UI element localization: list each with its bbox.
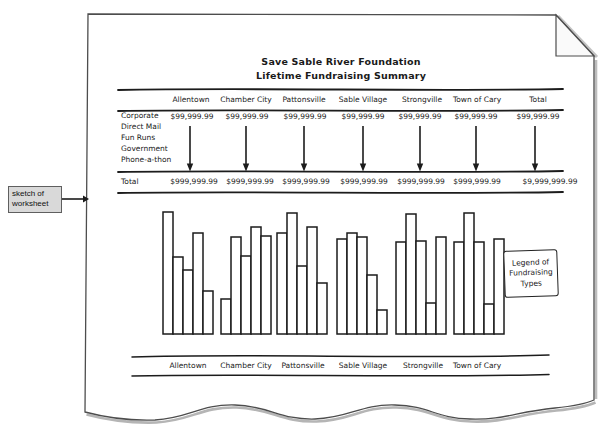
total-row-label: Total [121, 177, 139, 186]
chart-category-allentown: Allentown [169, 361, 206, 370]
bar-strongville-corporate [396, 242, 406, 334]
row-label-corporate: Corporate [121, 111, 159, 120]
chart-category-chamber-city: Chamber City [220, 361, 271, 370]
cell-total-value: $999,999.99 [282, 177, 330, 186]
legend-line: Types [521, 278, 542, 289]
row-label-fun-runs: Fun Runs [121, 133, 155, 142]
cell-detail-value: $99,999.99 [284, 112, 327, 121]
bar-chamber-city-phone-a-thon [261, 236, 271, 334]
bar-strongville-fun-runs [416, 241, 426, 334]
column-header-town-of-cary: Town of Cary [453, 95, 501, 104]
cell-total-value: $999,999.99 [397, 177, 445, 186]
table-rule-header [118, 110, 563, 111]
cell-total-value: $999,999.99 [453, 177, 501, 186]
cell-total-value: $9,999,999.99 [523, 177, 578, 186]
bar-pattonsville-direct-mail [287, 213, 297, 334]
callout-sketch-of-worksheet: sketch of worksheet [8, 186, 62, 213]
bar-town-of-cary-direct-mail [464, 213, 474, 334]
cell-detail-value: $99,999.99 [342, 112, 385, 121]
bar-sable-village-government [367, 275, 377, 334]
bar-allentown-fun-runs [183, 270, 193, 334]
bar-allentown-government [193, 233, 203, 334]
cell-detail-value: $99,999.99 [455, 112, 498, 121]
bar-allentown-phone-a-thon [203, 291, 213, 334]
cell-total-value: $999,999.99 [340, 177, 388, 186]
bar-town-of-cary-corporate [454, 242, 464, 334]
bar-chamber-city-corporate [221, 299, 231, 334]
bar-pattonsville-government [307, 227, 317, 334]
row-label-direct-mail: Direct Mail [121, 122, 161, 131]
dog-ear-fold-icon [556, 15, 594, 56]
bar-town-of-cary-government [484, 304, 494, 334]
bar-sable-village-corporate [337, 239, 347, 334]
bar-sable-village-fun-runs [357, 237, 367, 334]
chart-category-pattonsville: Pattonsville [281, 361, 324, 370]
legend-line: Fundraising [509, 267, 553, 279]
bar-chamber-city-fun-runs [241, 256, 251, 334]
chart-category-town-of-cary: Town of Cary [453, 361, 501, 370]
column-header-chamber-city: Chamber City [220, 95, 271, 104]
cell-detail-value: $99,999.99 [517, 112, 560, 121]
bar-chamber-city-government [251, 227, 261, 334]
cell-detail-value: $99,999.99 [226, 112, 269, 121]
column-header-allentown: Allentown [172, 95, 209, 104]
bar-allentown-corporate [163, 212, 173, 334]
chart-legend-box: Legend of Fundraising Types [503, 249, 559, 298]
column-header-strongville: Strongville [402, 95, 442, 104]
worksheet-subtitle: Lifetime Fundraising Summary [256, 70, 426, 81]
bar-pattonsville-phone-a-thon [317, 283, 327, 334]
bar-allentown-direct-mail [173, 257, 183, 334]
bar-strongville-phone-a-thon [436, 237, 446, 334]
cell-total-value: $999,999.99 [170, 177, 218, 186]
bar-strongville-direct-mail [406, 214, 416, 334]
cell-detail-value: $99,999.99 [399, 112, 442, 121]
column-header-total: Total [529, 95, 547, 104]
bar-sable-village-phone-a-thon [377, 310, 387, 334]
column-header-pattonsville: Pattonsville [282, 95, 325, 104]
bar-sable-village-direct-mail [347, 233, 357, 334]
bar-chamber-city-direct-mail [231, 237, 241, 334]
chart-category-sable-village: Sable Village [339, 361, 387, 370]
bar-pattonsville-fun-runs [297, 266, 307, 334]
row-label-government: Government [121, 144, 168, 153]
table-rule-above-total [118, 171, 563, 172]
worksheet-title: Save Sable River Foundation [261, 56, 420, 67]
column-header-sable-village: Sable Village [339, 95, 387, 104]
bar-strongville-government [426, 303, 436, 334]
cell-total-value: $999,999.99 [226, 177, 274, 186]
table-rule-bottom [118, 192, 563, 193]
cell-detail-value: $99,999.99 [171, 112, 214, 121]
row-label-phone-a-thon: Phone-a-thon [121, 155, 171, 164]
table-rule-top [118, 89, 563, 90]
bar-town-of-cary-fun-runs [474, 242, 484, 334]
figure-canvas: sketch of worksheet Save Sable River Fou… [0, 0, 606, 433]
chart-category-strongville: Strongville [403, 361, 443, 370]
bar-pattonsville-corporate [277, 233, 287, 334]
